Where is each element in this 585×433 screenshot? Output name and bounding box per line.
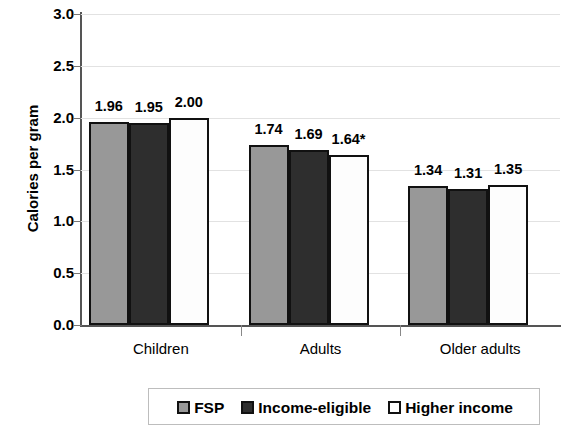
white-square-swatch <box>388 401 401 414</box>
y-axis-tick-label: 1.0 <box>34 213 74 228</box>
bar-value-label: 1.64* <box>323 131 375 147</box>
y-axis-tick-label: 0.5 <box>34 265 74 280</box>
y-axis-tick-label: 2.0 <box>34 110 74 125</box>
category-separator <box>241 325 242 336</box>
y-axis-tick-mark <box>73 325 82 326</box>
x-axis-category-label: Children <box>81 340 241 357</box>
legend-label: Income-eligible <box>258 400 371 416</box>
legend-item[interactable]: Income-eligible <box>241 400 371 416</box>
bar <box>89 122 129 325</box>
bar <box>289 150 329 325</box>
bar <box>169 118 209 325</box>
legend-item[interactable]: FSP <box>177 400 224 416</box>
legend-label: Higher income <box>405 400 513 416</box>
gridline <box>81 66 560 67</box>
bar <box>329 155 369 325</box>
y-axis-tick-labels: 3.02.52.01.51.00.50.0 <box>26 0 74 340</box>
y-axis-tick-label: 0.0 <box>34 317 74 332</box>
category-separator <box>400 325 401 336</box>
bar <box>488 185 528 325</box>
gridline <box>81 14 560 15</box>
bar <box>408 186 448 325</box>
legend-label: FSP <box>194 400 224 416</box>
bar <box>129 123 169 325</box>
bar <box>448 189 488 325</box>
x-axis-category-label: Older adults <box>400 340 560 357</box>
gridline <box>81 118 560 119</box>
plot-area: 1.961.952.001.741.691.64*1.341.311.35 <box>81 14 560 325</box>
dark-square-swatch <box>241 401 254 414</box>
bar-value-label: 1.35 <box>482 161 534 177</box>
x-axis-line <box>80 325 561 327</box>
bar-chart: Calories per gram 3.02.52.01.51.00.50.0 … <box>0 0 585 433</box>
bar <box>249 145 289 325</box>
legend: FSPIncome-eligibleHigher income <box>148 388 540 425</box>
y-axis-tick-label: 1.5 <box>34 162 74 177</box>
gray-square-swatch <box>177 401 190 414</box>
x-axis-category-label: Adults <box>241 340 401 357</box>
y-axis-tick-label: 2.5 <box>34 58 74 73</box>
bar-value-label: 2.00 <box>163 94 215 110</box>
y-axis-tick-label: 3.0 <box>34 6 74 21</box>
legend-item[interactable]: Higher income <box>388 400 513 416</box>
